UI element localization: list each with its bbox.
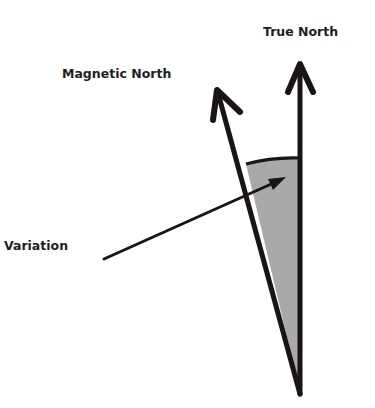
magnetic-north-label: Magnetic North — [62, 66, 171, 81]
variation-label: Variation — [4, 238, 68, 253]
variation-diagram — [0, 0, 375, 408]
true-north-label: True North — [263, 24, 338, 39]
